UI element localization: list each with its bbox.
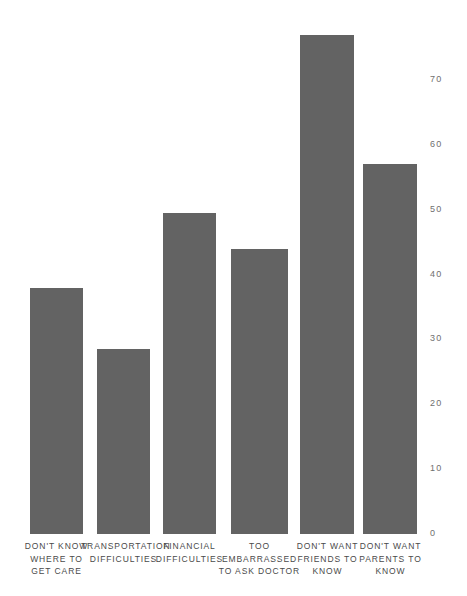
plot-area: 0 10 20 30 40 50 60 70 DON'T KNOW WHERE … <box>0 0 467 596</box>
bar-transportation-difficulties <box>97 349 150 534</box>
y-tick-label-10: 10 <box>430 463 442 473</box>
y-tick-label-70: 70 <box>430 74 442 84</box>
y-tick-label-30: 30 <box>430 333 442 343</box>
bar-dont-want-friends-to-know <box>300 35 354 534</box>
category-label-dont-want-parents-to-know: DON'T WANT PARENTS TO KNOW <box>348 540 433 578</box>
bar-dont-know-where-to-get-care <box>30 288 83 534</box>
category-label-line: DON'T WANT <box>348 540 433 553</box>
y-tick-label-60: 60 <box>430 139 442 149</box>
category-label-line: GET CARE <box>14 565 99 578</box>
bar-financial-difficulties <box>163 213 216 534</box>
category-label-line: PARENTS TO <box>348 553 433 566</box>
y-tick-label-50: 50 <box>430 204 442 214</box>
bar-too-embarrassed-to-ask-doctor <box>231 249 288 534</box>
y-tick-label-0: 0 <box>430 528 436 538</box>
y-tick-label-40: 40 <box>430 269 442 279</box>
bar-chart: 0 10 20 30 40 50 60 70 DON'T KNOW WHERE … <box>0 0 467 596</box>
category-label-line: KNOW <box>348 565 433 578</box>
bar-dont-want-parents-to-know <box>363 164 417 534</box>
y-tick-label-20: 20 <box>430 398 442 408</box>
